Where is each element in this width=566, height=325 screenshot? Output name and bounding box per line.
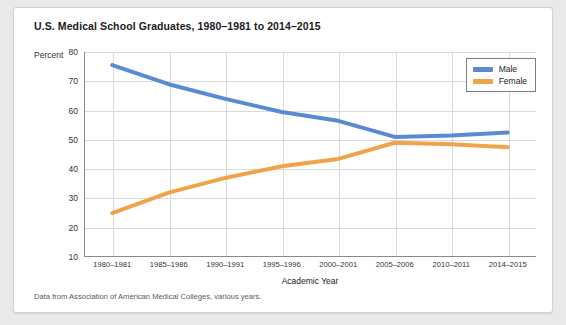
y-axis-tick-label: 20 [69,223,78,233]
chart-legend: MaleFemale [466,58,536,92]
y-axis-tick-label: 80 [69,47,78,57]
series-line-male [112,65,508,137]
x-axis-tick-label: 1985–1986 [150,260,188,269]
y-axis-tick-label: 60 [69,106,78,116]
x-axis-tick-label: 1980–1981 [93,260,131,269]
legend-swatch-icon [473,67,493,72]
x-axis-tick-label: 2005–2006 [376,260,414,269]
legend-label: Male [499,64,517,74]
source-note: Data from Association of American Medica… [34,292,262,301]
y-axis-tick-label: 10 [69,252,78,262]
x-axis-tick-label: 2010–2011 [433,260,470,269]
x-axis-title: Academic Year [84,276,536,286]
y-axis-tick-label: 30 [69,193,78,203]
screenshot-root: U.S. Medical School Graduates, 1980–1981… [0,0,566,325]
legend-label: Female [499,76,527,86]
page-title: U.S. Medical School Graduates, 1980–1981… [34,20,321,32]
series-line-female [112,143,508,213]
legend-swatch-icon [473,79,493,84]
y-axis-tick-label: 40 [69,164,78,174]
y-axis-tick-layer: 1020304050607080 [14,52,82,257]
legend-item-male[interactable]: Male [473,63,527,75]
y-axis-tick-label: 70 [69,76,78,86]
x-axis-tick-label: 2000–2001 [319,260,357,269]
legend-item-female[interactable]: Female [473,75,527,87]
x-axis-tick-label: 1995–1996 [263,260,301,269]
y-axis-tick-label: 50 [69,135,78,145]
chart-card: U.S. Medical School Graduates, 1980–1981… [13,7,553,313]
x-axis-tick-layer: 1980–19811985–19861990–19911995–19962000… [84,260,536,274]
x-axis-tick-label: 1990–1991 [206,260,244,269]
x-axis-tick-label: 2014–2015 [489,260,527,269]
